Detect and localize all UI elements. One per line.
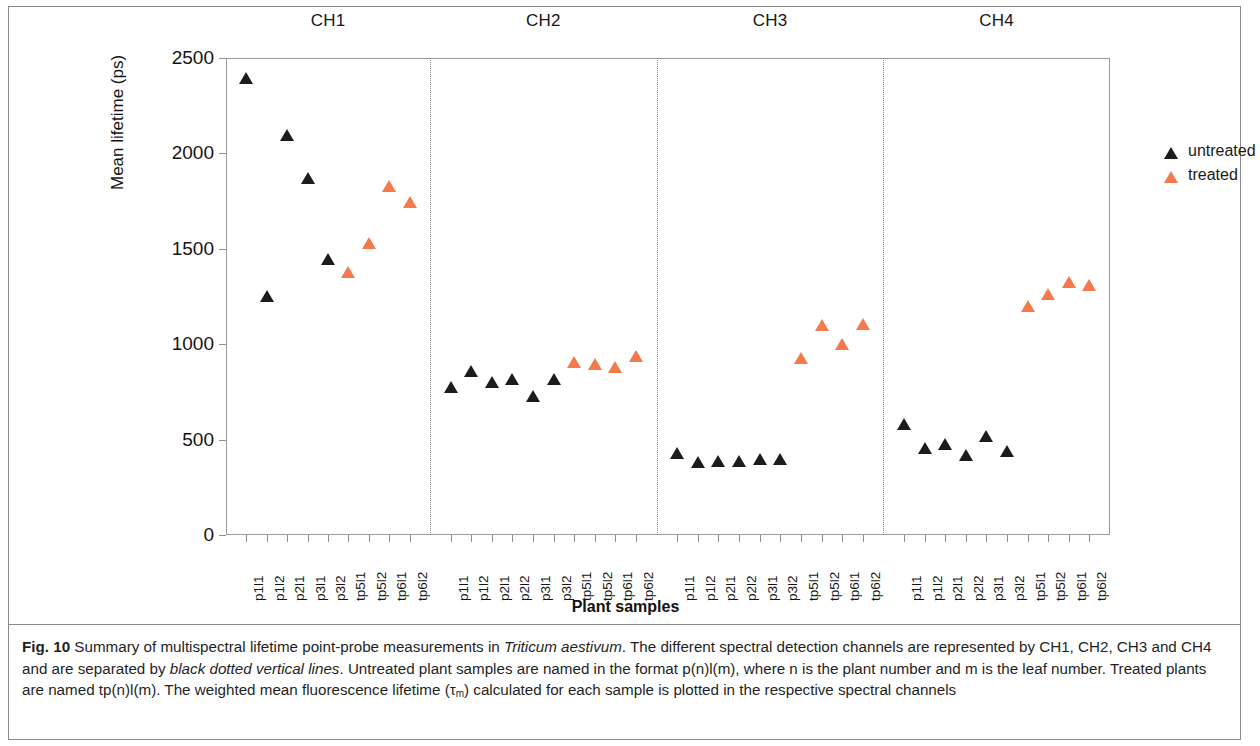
- data-point-untreated: [239, 72, 253, 84]
- y-tick-mark: [219, 440, 226, 441]
- x-tick-label: tp6l2: [641, 572, 656, 601]
- data-point-untreated: [547, 373, 561, 385]
- triangle-up-icon: [1164, 147, 1178, 159]
- triangle-up-icon: [1164, 171, 1178, 183]
- y-tick-label: 0: [203, 524, 214, 546]
- legend-label-treated: treated: [1188, 166, 1238, 184]
- data-point-treated: [1041, 288, 1055, 300]
- legend-item-untreated: untreated: [1164, 142, 1260, 166]
- data-point-treated: [403, 196, 417, 208]
- x-tick-mark: [451, 535, 452, 542]
- x-axis-tick-labels: p1l1p1l2p2l1p3l1p3l2tp5l1tp5l2tp6l1tp6l2…: [226, 543, 1110, 605]
- channel-separator-line: [657, 58, 658, 535]
- data-point-treated: [629, 350, 643, 362]
- data-point-treated: [362, 237, 376, 249]
- x-tick-label: tp5l1: [353, 572, 368, 601]
- x-tick-mark: [698, 535, 699, 542]
- channel-separator-line: [883, 58, 884, 535]
- data-point-untreated: [897, 418, 911, 430]
- data-point-untreated: [464, 365, 478, 377]
- x-tick-label: tp6l2: [1094, 572, 1109, 601]
- x-tick-mark: [760, 535, 761, 542]
- plot-frame: [226, 58, 1110, 535]
- x-tick-label: tp5l1: [579, 572, 594, 601]
- x-tick-mark: [739, 535, 740, 542]
- y-tick-mark: [219, 344, 226, 345]
- data-point-treated: [794, 352, 808, 364]
- y-tick-label: 1000: [172, 333, 214, 355]
- y-tick-mark: [219, 58, 226, 59]
- x-tick-mark: [369, 535, 370, 542]
- x-tick-label: tp6l1: [620, 572, 635, 601]
- x-tick-mark: [780, 535, 781, 542]
- figure-label: Fig. 10: [22, 638, 70, 655]
- x-tick-label: tp5l1: [1033, 572, 1048, 601]
- y-tick-label: 2000: [172, 142, 214, 164]
- x-tick-mark: [801, 535, 802, 542]
- x-tick-mark: [410, 535, 411, 542]
- data-point-untreated: [670, 447, 684, 459]
- caption-tau-subscript: m: [456, 688, 464, 699]
- y-tick-mark: [219, 535, 226, 536]
- x-tick-mark: [904, 535, 905, 542]
- x-tick-label: tp6l1: [394, 572, 409, 601]
- x-tick-mark: [1069, 535, 1070, 542]
- x-axis-title: Plant samples: [0, 598, 1251, 616]
- x-tick-mark: [492, 535, 493, 542]
- x-tick-mark: [1007, 535, 1008, 542]
- x-tick-mark: [389, 535, 390, 542]
- x-tick-mark: [863, 535, 864, 542]
- data-point-untreated: [485, 376, 499, 388]
- y-tick-mark: [219, 249, 226, 250]
- channel-header-ch2: CH2: [430, 11, 657, 31]
- x-tick-mark: [986, 535, 987, 542]
- x-tick-label: tp6l1: [847, 572, 862, 601]
- x-tick-mark: [348, 535, 349, 542]
- x-tick-mark: [246, 535, 247, 542]
- x-tick-label: tp6l2: [415, 572, 430, 601]
- caption-species: Triticum aestivum: [504, 638, 622, 655]
- x-tick-mark: [1089, 535, 1090, 542]
- data-point-untreated: [691, 456, 705, 468]
- channel-separator-line: [430, 58, 431, 535]
- data-point-untreated: [938, 438, 952, 450]
- caption-text-4: ) calculated for each sample is plotted …: [464, 681, 956, 698]
- data-point-treated: [567, 356, 581, 368]
- data-point-untreated: [773, 453, 787, 465]
- x-tick-mark: [533, 535, 534, 542]
- x-tick-mark: [718, 535, 719, 542]
- x-tick-label: tp5l1: [806, 572, 821, 601]
- y-axis: 05001000150020002500: [160, 52, 226, 544]
- data-point-treated: [1021, 300, 1035, 312]
- data-point-untreated: [526, 390, 540, 402]
- data-point-untreated: [321, 253, 335, 265]
- x-tick-mark: [945, 535, 946, 542]
- data-point-untreated: [732, 455, 746, 467]
- data-point-untreated: [918, 442, 932, 454]
- x-tick-mark: [925, 535, 926, 542]
- channel-header-ch4: CH4: [883, 11, 1110, 31]
- channel-header-ch3: CH3: [657, 11, 884, 31]
- data-point-treated: [341, 266, 355, 278]
- x-tick-label: tp6l2: [868, 572, 883, 601]
- caption-text-1: Summary of multispectral lifetime point-…: [74, 638, 504, 655]
- x-tick-mark: [842, 535, 843, 542]
- data-point-untreated: [753, 453, 767, 465]
- data-point-treated: [835, 338, 849, 350]
- data-point-untreated: [301, 172, 315, 184]
- y-tick-label: 2500: [172, 47, 214, 69]
- x-tick-mark: [822, 535, 823, 542]
- caption-italic-lines: black dotted vertical lines: [170, 660, 340, 677]
- legend-item-treated: treated: [1164, 166, 1260, 190]
- data-point-untreated: [1000, 445, 1014, 457]
- x-tick-mark: [1048, 535, 1049, 542]
- x-tick-mark: [574, 535, 575, 542]
- x-tick-mark: [471, 535, 472, 542]
- x-tick-mark: [966, 535, 967, 542]
- x-tick-label: tp5l2: [600, 572, 615, 601]
- x-tick-mark: [615, 535, 616, 542]
- figure-caption: Fig. 10 Summary of multispectral lifetim…: [22, 636, 1228, 701]
- data-point-treated: [1082, 279, 1096, 291]
- data-point-untreated: [280, 129, 294, 141]
